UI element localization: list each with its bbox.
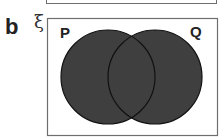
set-p-label: P <box>60 24 70 41</box>
venn-diagram: P Q <box>0 0 222 139</box>
set-q-label: Q <box>190 23 202 40</box>
